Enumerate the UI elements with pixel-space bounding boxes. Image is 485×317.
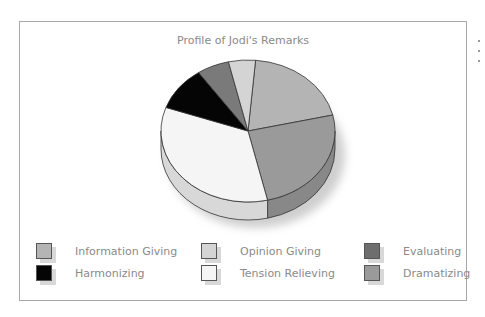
legend-item-tension-relieving: Tension Relieving [201,265,335,281]
page-edge-marks [478,40,481,70]
legend-item-information-giving: Information Giving [36,243,177,259]
legend-label: Opinion Giving [240,245,321,258]
legend-swatch [36,265,52,281]
legend-swatch [364,265,380,281]
legend-label: Dramatizing [403,267,470,280]
legend-swatch [36,243,52,259]
legend-item-opinion-giving: Opinion Giving [201,243,321,259]
legend-swatch [201,265,217,281]
legend-label: Evaluating [403,245,461,258]
legend-label: Tension Relieving [240,267,335,280]
legend-swatch [364,243,380,259]
legend-label: Information Giving [75,245,177,258]
legend-item-dramatizing: Dramatizing [364,265,470,281]
legend-swatch [201,243,217,259]
legend-item-harmonizing: Harmonizing [36,265,145,281]
pie-top [161,60,335,202]
legend-item-evaluating: Evaluating [364,243,461,259]
legend-label: Harmonizing [75,267,145,280]
